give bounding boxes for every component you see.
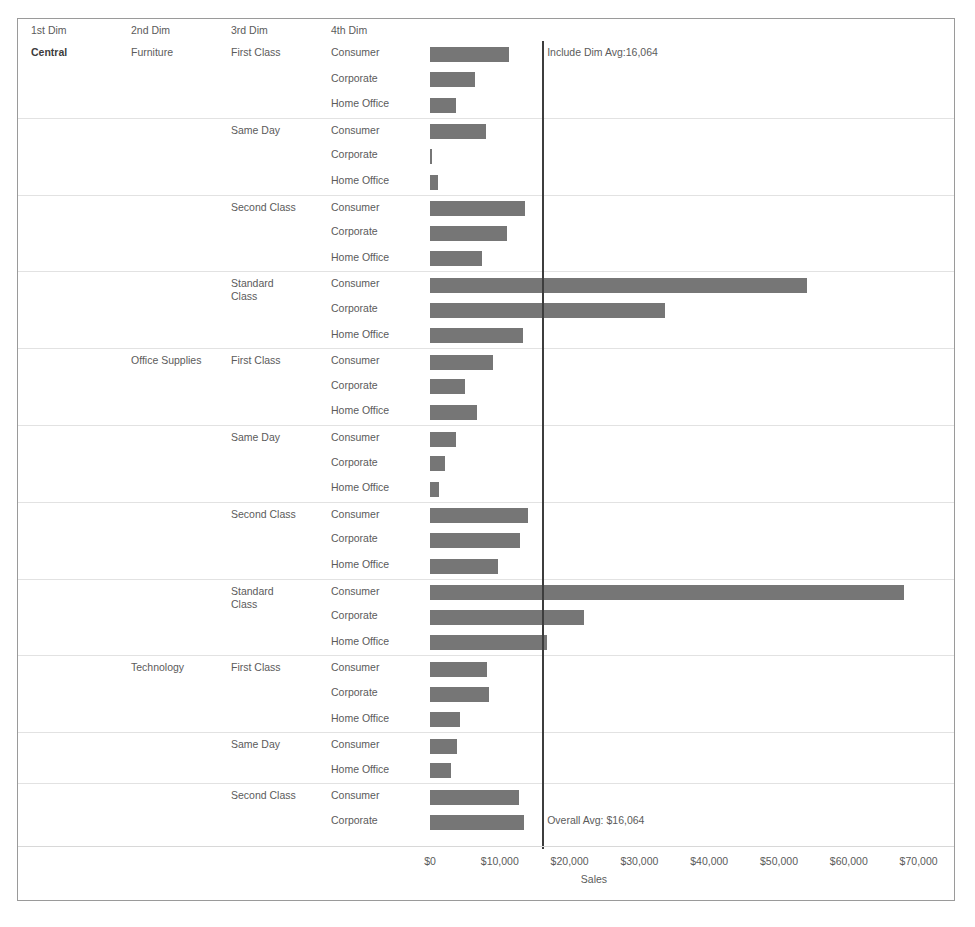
header-2nd-dim: 2nd Dim [131,24,170,36]
table-row[interactable]: Home Office [18,92,954,118]
table-row[interactable]: Corporate [18,681,954,707]
table-row[interactable]: Same DayConsumer [18,732,954,758]
table-row[interactable]: Home Office [18,707,954,733]
x-axis-tick-label: $70,000 [900,855,938,867]
bar[interactable] [430,687,489,702]
bar[interactable] [430,763,451,778]
bar[interactable] [430,482,439,497]
bar[interactable] [430,98,456,113]
table-row[interactable]: CentralFurnitureFirst ClassConsumer [18,41,954,67]
table-row[interactable]: Home Office [18,553,954,579]
table-row[interactable]: Second ClassConsumer [18,502,954,528]
row-label-dim3: Same Day [231,738,280,751]
row-label-dim4: Consumer [331,277,379,290]
row-label-dim4: Corporate [331,225,378,238]
bar[interactable] [430,201,525,216]
bar[interactable] [430,226,507,241]
row-label-dim4: Corporate [331,302,378,315]
bar[interactable] [430,610,584,625]
row-label-dim4: Consumer [331,738,379,751]
row-label-dim4: Corporate [331,814,378,827]
bar[interactable] [430,815,524,830]
row-label-dim4: Consumer [331,201,379,214]
row-label-dim3: First Class [231,46,281,59]
table-row[interactable]: Home Office [18,169,954,195]
row-label-dim4: Consumer [331,508,379,521]
table-row[interactable]: Corporate [18,604,954,630]
row-label-dim3: Standard Class [231,277,274,303]
row-label-dim3: First Class [231,354,281,367]
row-label-dim3: Second Class [231,789,296,802]
x-axis-tick-label: $30,000 [620,855,658,867]
row-label-dim4: Corporate [331,148,378,161]
row-label-dim4: Consumer [331,789,379,802]
table-row[interactable]: Corporate [18,143,954,169]
bar[interactable] [430,662,487,677]
row-label-dim2: Furniture [131,46,173,59]
row-label-dim1: Central [31,46,67,59]
bar[interactable] [430,405,477,420]
table-row[interactable]: Corporate [18,527,954,553]
table-row[interactable]: Home Office [18,246,954,272]
table-row[interactable]: Standard ClassConsumer [18,271,954,297]
row-label-dim3: Standard Class [231,585,274,611]
row-label-dim4: Corporate [331,72,378,85]
bar[interactable] [430,278,807,293]
bar[interactable] [430,790,519,805]
bar[interactable] [430,559,498,574]
row-label-dim4: Home Office [331,635,389,648]
bar[interactable] [430,72,475,87]
table-row[interactable]: Home Office [18,758,954,784]
table-row[interactable]: Home Office [18,323,954,349]
x-axis-tick-label: $0 [424,855,436,867]
table-row[interactable]: Home Office [18,399,954,425]
table-row[interactable]: Office SuppliesFirst ClassConsumer [18,348,954,374]
bar[interactable] [430,328,523,343]
bar[interactable] [430,533,520,548]
table-row[interactable]: Same DayConsumer [18,425,954,451]
row-label-dim4: Corporate [331,532,378,545]
bar[interactable] [430,432,456,447]
bar[interactable] [430,124,486,139]
bar[interactable] [430,149,432,164]
row-label-dim3: Same Day [231,124,280,137]
row-label-dim4: Home Office [331,404,389,417]
table-row[interactable]: Corporate [18,297,954,323]
table-row[interactable]: TechnologyFirst ClassConsumer [18,655,954,681]
x-axis-title-text: Sales [581,873,607,885]
table-row[interactable]: Corporate [18,809,954,835]
table-row[interactable]: Home Office [18,476,954,502]
row-label-dim4: Home Office [331,712,389,725]
table-row[interactable]: Second ClassConsumer [18,195,954,221]
bar[interactable] [430,355,493,370]
table-row[interactable]: Corporate [18,220,954,246]
bar[interactable] [430,251,482,266]
bar[interactable] [430,303,665,318]
table-row[interactable]: Corporate [18,67,954,93]
table-row[interactable]: Home Office [18,630,954,656]
bar[interactable] [430,635,547,650]
reference-line-top-label: Include Dim Avg:16,064 [547,46,658,58]
bar[interactable] [430,456,445,471]
bar[interactable] [430,175,438,190]
table-row[interactable]: Corporate [18,374,954,400]
row-label-dim4: Consumer [331,124,379,137]
table-row[interactable]: Standard ClassConsumer [18,579,954,605]
table-row[interactable]: Same DayConsumer [18,118,954,144]
table-row[interactable]: Corporate [18,451,954,477]
row-label-dim4: Corporate [331,609,378,622]
viz-container: 1st Dim 2nd Dim 3rd Dim 4th Dim Corporat… [17,18,955,901]
bar[interactable] [430,712,460,727]
chart-rows: CorporateSecond ClassConsumerHome Office… [18,41,954,849]
bar[interactable] [430,585,904,600]
bar[interactable] [430,739,457,754]
header-4th-dim: 4th Dim [331,24,367,36]
row-label-dim4: Consumer [331,661,379,674]
header-3rd-dim: 3rd Dim [231,24,268,36]
bar[interactable] [430,47,509,62]
bar[interactable] [430,379,465,394]
reference-line-include-dim-avg [542,41,544,849]
bar[interactable] [430,508,528,523]
row-label-dim4: Corporate [331,456,378,469]
table-row[interactable]: Second ClassConsumer [18,783,954,809]
